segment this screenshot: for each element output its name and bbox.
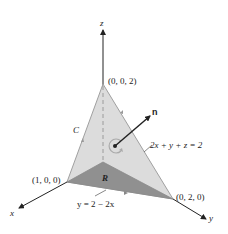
y-axis-label: y: [208, 213, 213, 223]
apex-point-label: (0, 0, 2): [108, 76, 137, 86]
normal-label: n: [152, 107, 158, 117]
plane-equation-label: 2x + y + z = 2: [150, 140, 203, 150]
x-axis: [19, 182, 67, 208]
z-axis-label: z: [99, 18, 104, 28]
y-axis: [173, 199, 206, 219]
curve-label: C: [73, 125, 80, 135]
boundary-line-label: y = 2 − 2x: [77, 199, 115, 209]
x-axis-label: x: [9, 208, 14, 218]
region-label: R: [101, 173, 108, 183]
surface-diagram: z (0, 0, 2) n C 2x + y + z = 2 (1, 0, 0)…: [0, 0, 228, 234]
y-intercept-label: (0, 2, 0): [176, 192, 205, 202]
boundary-line-leader: [95, 190, 106, 196]
x-intercept-label: (1, 0, 0): [32, 175, 61, 185]
